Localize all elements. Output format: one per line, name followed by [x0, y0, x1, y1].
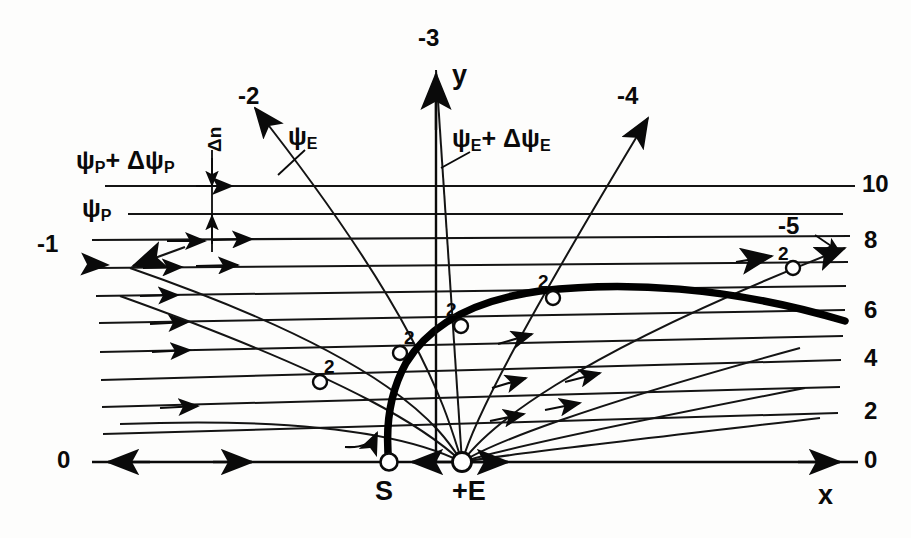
source-point-E	[453, 453, 472, 472]
psi-e-subscript: E	[307, 135, 318, 152]
callout-minus-5: -5	[778, 214, 799, 238]
psi-p-plus-delta-label: ψP+ ΔψP	[76, 148, 175, 176]
intersection-label-1: 2	[324, 357, 335, 376]
tick-label-y-8: 8	[864, 228, 877, 252]
stagnation-point-S	[381, 454, 398, 471]
psi-p-subscript-2: P	[164, 159, 175, 176]
psi-p-subscript-3: P	[101, 207, 112, 224]
tick-label-y-2: 2	[864, 399, 877, 423]
psi-symbol-3: ψ	[288, 122, 307, 150]
streamline-flow-arrowheads	[140, 186, 252, 408]
figure-container: 10 8 6 4 2 0 0 x y S +E -1 -2 -3 -4 -5 ψ…	[0, 0, 911, 538]
psi-e-subscript-2: E	[471, 137, 482, 154]
x-axis-label: x	[818, 482, 833, 509]
psi-p-subscript: P	[95, 159, 106, 176]
tick-label-y-4: 4	[864, 346, 877, 370]
tick-label-y-0: 0	[864, 448, 877, 472]
psi-symbol-2: ψ	[82, 194, 101, 222]
psi-e-label: ψE	[288, 124, 318, 152]
callout-minus-1: -1	[37, 232, 58, 256]
y-axis-label: y	[452, 62, 467, 89]
intersection-label-2: 2	[404, 328, 415, 347]
x-axis-origin-label: 0	[57, 448, 70, 472]
intersection-label-5: 2	[778, 244, 789, 263]
callout-minus-3: -3	[418, 26, 439, 50]
ray-minus1-arrow	[133, 247, 185, 266]
delta-n-label: Δn	[205, 127, 224, 152]
callout-minus-4: -4	[617, 84, 638, 108]
delta-psi-part: + Δψ	[106, 146, 164, 174]
psi-symbol: ψ	[76, 146, 95, 174]
callout-minus-2: -2	[238, 84, 259, 108]
source-point-label: +E	[452, 478, 486, 505]
psi-p-label: ψP	[82, 196, 112, 224]
psi-e-plus-delta-label: ψE+ ΔψE	[452, 126, 551, 154]
psi-symbol-4: ψ	[452, 124, 471, 152]
intersection-label-4: 2	[538, 272, 549, 291]
intersection-label-3: 2	[446, 300, 457, 319]
psi-e-subscript-3: E	[540, 137, 551, 154]
delta-psi-e-part: + Δψ	[482, 124, 540, 152]
tick-label-y-6: 6	[864, 298, 877, 322]
stagnation-point-label: S	[375, 478, 393, 505]
tick-label-y-10: 10	[862, 172, 889, 196]
